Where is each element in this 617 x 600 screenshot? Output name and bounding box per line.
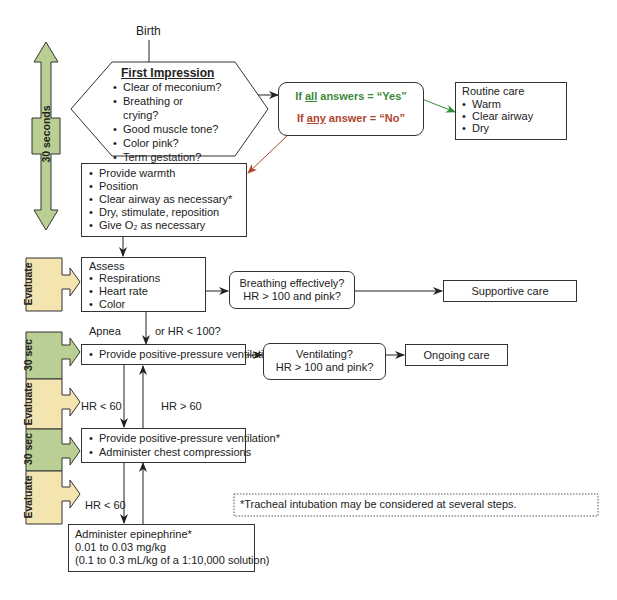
routine-item: Clear airway [462, 110, 560, 122]
fi-item: Term gestation? [113, 150, 221, 164]
stage-evaluate-2 [26, 379, 80, 429]
ppv-box: Provide positive-pressure ventilation* [81, 344, 246, 365]
footnote-text: *Tracheal intubation may be considered a… [240, 498, 517, 510]
apnea-label: Apnea [89, 325, 121, 337]
hr-gt-60-label: HR > 60 [161, 400, 202, 412]
breathing-line2: HR > 100 and pink? [230, 290, 354, 303]
epinephrine-line1: Administer epinephrine* [75, 528, 248, 541]
first-impression-list: Clear of meconium? Breathing or crying? … [113, 80, 221, 164]
ventilating-line1: Ventilating? [264, 348, 385, 361]
initial-step: Provide warmth [89, 167, 239, 180]
assess-box: Assess Respirations Heart rate Color [81, 257, 206, 312]
initial-steps-box: Provide warmth Position Clear airway as … [81, 163, 247, 237]
routine-care-list: Warm Clear airway Dry [462, 98, 560, 134]
first-impression-title: First Impression [121, 66, 221, 80]
ventilating-check-box: Ventilating? HR > 100 and pink? [263, 343, 386, 380]
fi-item: Clear of meconium? [113, 80, 221, 94]
ppv-cc-item: Provide positive-pressure ventilation* [89, 431, 238, 445]
ppv-compressions-box: Provide positive-pressure ventilation* A… [81, 428, 246, 463]
stage-label-evaluate-3: Evaluate [22, 467, 34, 527]
supportive-care-label: Supportive care [471, 285, 548, 297]
routine-item: Dry [462, 122, 560, 134]
assess-item: Color [89, 298, 198, 311]
fi-item-cont: crying? [113, 108, 221, 122]
ppv-list: Provide positive-pressure ventilation* [89, 347, 238, 362]
epinephrine-box: Administer epinephrine* 0.01 to 0.03 mg/… [68, 524, 255, 572]
breathing-check-box: Breathing effectively? HR > 100 and pink… [229, 271, 355, 309]
stage-label-evaluate-1: Evaluate [22, 254, 34, 314]
hr-lt-100-label: or HR < 100? [155, 325, 221, 337]
first-impression-content: First Impression Clear of meconium? Brea… [113, 66, 221, 164]
ongoing-care-label: Ongoing care [423, 349, 489, 361]
breathing-line1: Breathing effectively? [230, 277, 354, 290]
initial-step: Dry, stimulate, reposition [89, 206, 239, 219]
hr-lt-60-label-1: HR < 60 [81, 400, 122, 412]
epinephrine-line3: (0.1 to 0.3 mL/kg of a 1:10,000 solution… [75, 554, 248, 567]
fi-item: Breathing or [113, 94, 221, 108]
stage-30sec-1 [26, 332, 80, 379]
birth-label: Birth [136, 24, 161, 38]
ppv-item: Provide positive-pressure ventilation* [89, 347, 238, 362]
no-condition: If any answer = “No” [279, 112, 423, 124]
assess-title: Assess [89, 260, 198, 272]
routine-care-box: Routine care Warm Clear airway Dry [455, 82, 567, 140]
decision-box: If all answers = “Yes” If any answer = “… [278, 82, 424, 136]
assess-item: Respirations [89, 272, 198, 285]
ventilating-line2: HR > 100 and pink? [264, 361, 385, 374]
initial-step: Position [89, 180, 239, 193]
initial-step: Clear airway as necessary* [89, 193, 239, 206]
assess-list: Respirations Heart rate Color [89, 272, 198, 311]
yes-condition: If all answers = “Yes” [279, 90, 423, 102]
ppv-compressions-list: Provide positive-pressure ventilation* A… [89, 431, 238, 459]
stage-30sec-2 [26, 429, 80, 471]
supportive-care-box: Supportive care [443, 280, 577, 302]
fi-item: Color pink? [113, 136, 221, 150]
initial-steps-list: Provide warmth Position Clear airway as … [89, 167, 239, 232]
stage-evaluate-3 [26, 471, 80, 524]
assess-item: Heart rate [89, 285, 198, 298]
routine-care-title: Routine care [462, 85, 560, 98]
stage-evaluate-1 [26, 258, 80, 311]
ongoing-care-box: Ongoing care [405, 344, 508, 366]
timer-label: 30 seconds [40, 101, 52, 167]
fi-item: Good muscle tone? [113, 122, 221, 136]
routine-item: Warm [462, 98, 560, 110]
hr-lt-60-label-2: HR < 60 [85, 499, 126, 511]
initial-step: Give O₂ as necessary [89, 219, 239, 232]
ppv-cc-item: Administer chest compressions [89, 445, 238, 459]
epinephrine-line2: 0.01 to 0.03 mg/kg [75, 541, 248, 554]
